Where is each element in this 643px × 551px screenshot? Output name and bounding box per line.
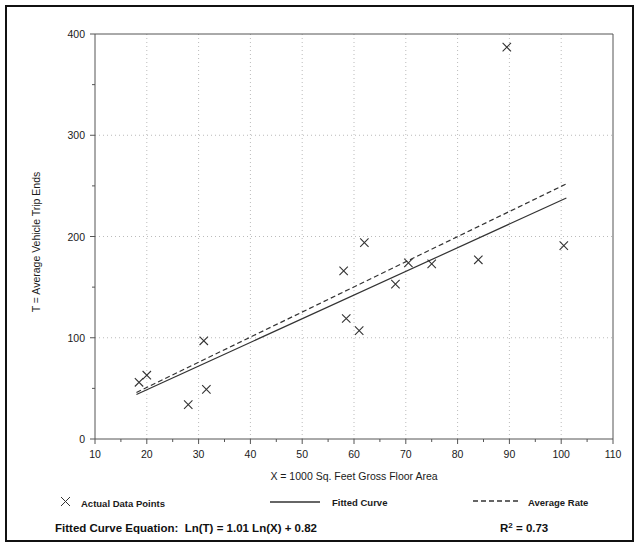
- x-tick-label: 40: [245, 448, 257, 460]
- data-point-marker: [202, 385, 210, 393]
- legend-label-actual-data-points: Actual Data Points: [81, 498, 165, 509]
- legend-label-fitted-curve: Fitted Curve: [332, 497, 387, 508]
- x-tick-label: 110: [605, 448, 622, 460]
- legend-item-average-rate: Average Rate: [473, 497, 588, 508]
- data-point-marker: [355, 326, 363, 334]
- chart-footer: Fitted Curve Equation: Ln(T) = 1.01 Ln(X…: [55, 521, 548, 534]
- x-tick-label: 100: [552, 448, 570, 460]
- y-tick-label: 400: [67, 28, 85, 40]
- legend-item-actual-data-points: Actual Data Points: [61, 497, 165, 509]
- chart-legend: Actual Data Points Fitted Curve Average …: [61, 497, 588, 509]
- data-point-marker: [474, 256, 482, 264]
- x-tick-label: 60: [348, 448, 360, 460]
- data-point-marker: [560, 241, 568, 249]
- data-point-marker: [339, 267, 347, 275]
- x-tick-label: 20: [141, 448, 153, 460]
- y-axis-tick-labels: 0100200300400: [67, 28, 85, 445]
- data-point-marker: [360, 238, 368, 246]
- y-axis-title: T = Average Vehicle Trip Ends: [30, 172, 42, 313]
- axis-ticks: [90, 34, 613, 444]
- x-tick-label: 70: [400, 448, 412, 460]
- legend-label-average-rate: Average Rate: [528, 497, 588, 508]
- legend-item-fitted-curve: Fitted Curve: [270, 497, 387, 508]
- x-tick-label: 90: [504, 448, 516, 460]
- r-squared-value: R2 = 0.73: [500, 521, 548, 534]
- data-point-marker: [391, 280, 399, 288]
- x-tick-label: 50: [296, 448, 308, 460]
- trend-lines: [136, 184, 566, 395]
- data-point-marker: [428, 260, 436, 268]
- x-axis-title: X = 1000 Sq. Feet Gross Floor Area: [270, 470, 437, 482]
- data-point-marker: [135, 378, 143, 386]
- chart-frame: 0100200300400 102030405060708090100110 T…: [5, 5, 634, 542]
- cross-marker-icon: [61, 497, 70, 506]
- chart-canvas: 0100200300400 102030405060708090100110 T…: [7, 7, 632, 540]
- x-axis-tick-labels: 102030405060708090100110: [89, 448, 621, 460]
- scatter-chart: 0100200300400 102030405060708090100110 T…: [7, 7, 632, 540]
- data-point-marker: [503, 43, 511, 51]
- y-tick-label: 0: [79, 433, 85, 445]
- y-tick-label: 200: [67, 231, 85, 243]
- y-tick-label: 100: [67, 332, 85, 344]
- data-point-marker: [342, 314, 350, 322]
- trend-line-dashed: [136, 184, 566, 393]
- x-tick-label: 10: [89, 448, 101, 460]
- y-tick-label: 300: [67, 129, 85, 141]
- data-points: [135, 43, 568, 409]
- fitted-curve-equation-label: Fitted Curve Equation: Ln(T) = 1.01 Ln(X…: [55, 522, 317, 534]
- x-tick-label: 80: [452, 448, 464, 460]
- data-point-marker: [184, 400, 192, 408]
- x-tick-label: 30: [193, 448, 205, 460]
- trend-line-solid: [136, 198, 566, 394]
